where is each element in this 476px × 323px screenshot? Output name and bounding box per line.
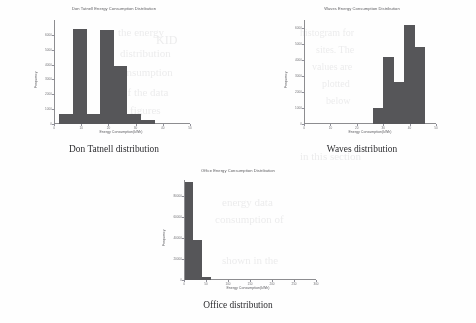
x-axis-tick-mark — [272, 280, 273, 282]
x-axis-tick-mark — [357, 124, 358, 126]
y-axis-tick-label: 4000 — [45, 63, 52, 67]
x-axis-tick-label: 30 — [381, 126, 384, 130]
histogram-bar — [202, 277, 211, 280]
plot-area-don-tatnell: 010002000300040005000600001020304050 — [54, 20, 190, 124]
x-axis-tick-mark — [304, 124, 305, 126]
x-axis-tick-label: 40 — [408, 126, 411, 130]
x-axis-tick-mark — [54, 124, 55, 126]
y-axis-label: Frequency — [162, 229, 166, 246]
histogram-bars — [304, 20, 436, 124]
y-axis-tick-label: 6000 — [295, 26, 302, 30]
scanned-figure-page: { "page": { "background_color": "#fefefe… — [0, 0, 476, 323]
x-axis-tick-label: 10 — [329, 126, 332, 130]
histogram-bar — [383, 57, 394, 124]
x-axis-tick-mark — [228, 280, 229, 282]
x-axis-label: Energy Consumption(kWh) — [44, 130, 198, 134]
y-axis-tick-label: 80000 — [173, 194, 182, 198]
x-axis-tick-mark — [190, 124, 191, 126]
x-axis-tick-mark — [330, 124, 331, 126]
y-axis-tick-mark — [182, 238, 184, 239]
chart-title: Office Energy Consumption Distribution — [148, 168, 328, 173]
x-axis-tick-mark — [136, 124, 137, 126]
x-axis-tick-label: 40 — [161, 126, 164, 130]
figure-office: Office Energy Consumption Distribution 0… — [148, 168, 328, 320]
x-axis-tick-mark — [410, 124, 411, 126]
y-axis-label: Frequency — [34, 71, 38, 88]
y-axis-tick-label: 40000 — [173, 236, 182, 240]
x-axis-tick-mark — [436, 124, 437, 126]
y-axis-tick-mark — [302, 76, 304, 77]
x-axis-tick-label: 150 — [247, 282, 252, 286]
x-axis-tick-label: 20 — [107, 126, 110, 130]
histogram-bar — [193, 240, 203, 280]
chart-waves: Waves Energy Consumption Distribution 01… — [272, 6, 452, 140]
y-axis-tick-label: 2000 — [45, 92, 52, 96]
x-axis-tick-mark — [206, 280, 207, 282]
x-axis-tick-mark — [316, 280, 317, 282]
x-axis-tick-mark — [250, 280, 251, 282]
x-axis-tick-label: 200 — [269, 282, 274, 286]
y-axis-tick-label: 5000 — [295, 42, 302, 46]
histogram-bar — [394, 82, 405, 124]
y-axis-tick-label: 4000 — [295, 58, 302, 62]
x-axis-tick-mark — [81, 124, 82, 126]
y-axis-tick-mark — [52, 65, 54, 66]
y-axis-tick-label: 6000 — [45, 33, 52, 37]
figure-caption: Waves distribution — [272, 144, 452, 154]
histogram-bar — [73, 29, 87, 124]
x-axis-tick-label: 50 — [434, 126, 437, 130]
x-axis-tick-mark — [383, 124, 384, 126]
y-axis-tick-mark — [52, 94, 54, 95]
x-axis-label: Energy Consumption(kWh) — [174, 286, 322, 290]
histogram-bar — [127, 114, 141, 124]
x-axis-tick-mark — [108, 124, 109, 126]
x-axis-tick-label: 0 — [183, 282, 185, 286]
y-axis-tick-label: 5000 — [45, 48, 52, 52]
y-axis-tick-mark — [302, 108, 304, 109]
chart-don-tatnell: Don Tatnell Energy Consumption Distribut… — [24, 6, 204, 140]
y-axis-tick-mark — [302, 92, 304, 93]
figure-caption: Don Tatnell distribution — [24, 144, 204, 154]
y-axis-tick-mark — [302, 28, 304, 29]
x-axis-tick-label: 250 — [291, 282, 296, 286]
y-axis-tick-label: 2000 — [295, 90, 302, 94]
histogram-bar — [100, 30, 114, 124]
plot-area-waves: 010002000300040005000600001020304050 — [304, 20, 436, 124]
y-axis-label: Frequency — [284, 71, 288, 88]
y-axis-tick-label: 60000 — [173, 215, 182, 219]
x-axis-tick-label: 0 — [303, 126, 305, 130]
figure-waves: Waves Energy Consumption Distribution 01… — [272, 6, 452, 164]
x-axis-tick-label: 0 — [53, 126, 55, 130]
figure-caption: Office distribution — [148, 300, 328, 310]
chart-office: Office Energy Consumption Distribution 0… — [148, 168, 328, 298]
chart-title: Don Tatnell Energy Consumption Distribut… — [24, 6, 204, 11]
histogram-bar — [373, 108, 384, 124]
plot-area-office: 020000400006000080000050100150200250300 — [184, 180, 316, 280]
histogram-bars — [184, 180, 316, 280]
y-axis-tick-mark — [52, 79, 54, 80]
histogram-bars — [54, 20, 190, 124]
x-axis-tick-mark — [163, 124, 164, 126]
y-axis-tick-label: 3000 — [295, 74, 302, 78]
histogram-bar — [87, 114, 101, 124]
x-axis-tick-label: 300 — [313, 282, 318, 286]
histogram-bar — [59, 114, 73, 124]
y-axis-tick-mark — [302, 60, 304, 61]
histogram-bar — [185, 182, 193, 280]
histogram-bar — [415, 47, 426, 124]
x-axis-tick-label: 20 — [355, 126, 358, 130]
y-axis-tick-mark — [52, 109, 54, 110]
y-axis-tick-mark — [302, 44, 304, 45]
y-axis-tick-mark — [182, 259, 184, 260]
y-axis-tick-mark — [52, 50, 54, 51]
histogram-bar — [141, 120, 155, 124]
x-axis-tick-label: 10 — [79, 126, 82, 130]
y-axis-tick-mark — [52, 35, 54, 36]
chart-title: Waves Energy Consumption Distribution — [272, 6, 452, 11]
y-axis-tick-label: 1000 — [295, 106, 302, 110]
y-axis-tick-label: 20000 — [173, 257, 182, 261]
x-axis-tick-mark — [184, 280, 185, 282]
y-axis-tick-mark — [182, 217, 184, 218]
histogram-bar — [114, 66, 128, 124]
figure-don-tatnell: Don Tatnell Energy Consumption Distribut… — [24, 6, 204, 164]
